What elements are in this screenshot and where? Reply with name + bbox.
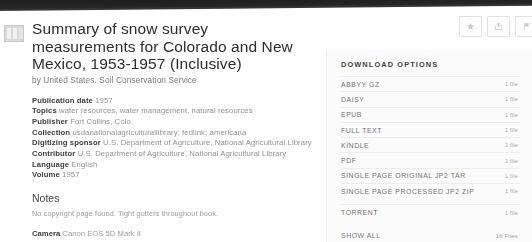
download-option-row[interactable]: PDF 1 file: [341, 152, 520, 167]
favorite-button[interactable]: [459, 16, 482, 37]
metadata-row: Collection usdanationalagriculturallibra…: [32, 128, 332, 138]
flag-button[interactable]: [515, 16, 532, 37]
metadata-value[interactable]: water resources, water management, natur…: [59, 106, 253, 115]
download-option-label: TORRENT: [341, 209, 378, 216]
author-byline[interactable]: by United States. Soil Conservation Serv…: [32, 76, 300, 85]
download-option-count: 1 file: [505, 127, 518, 133]
download-option-count: 1 file: [505, 112, 518, 118]
item-info-column: Summary of snow survey measurements for …: [0, 16, 340, 242]
download-option-count: 1 file: [505, 81, 518, 87]
download-option-count: 1 file: [505, 173, 518, 179]
show-all-label: SHOW ALL: [341, 232, 381, 239]
download-option-label: PDF: [341, 157, 356, 164]
download-option-row[interactable]: TORRENT 1 file: [341, 204, 520, 219]
metadata-key: Collection: [32, 128, 70, 137]
metadata-row: Topics water resources, water management…: [32, 106, 332, 116]
metadata-row: Digitizing sponsor U.S. Department of Ag…: [32, 138, 332, 148]
share-icon: [494, 22, 503, 31]
metadata-row: Contributor U.S. Department of Agricultu…: [32, 149, 332, 159]
download-option-label: DAISY: [341, 96, 364, 103]
item-header: Summary of snow survey measurements for …: [4, 20, 332, 85]
metadata-value[interactable]: usdanationalagriculturallibrary; fedlink…: [72, 128, 246, 137]
top-navigation-bar: [0, 0, 532, 11]
metadata-value: 1957: [62, 170, 80, 179]
metadata-row: Volume 1957: [32, 170, 332, 180]
download-option-row[interactable]: DAISY 1 file: [341, 91, 520, 106]
download-option-count: 1 file: [505, 158, 518, 164]
download-option-label: ABBYY GZ: [341, 81, 380, 88]
page-title: Summary of snow survey measurements for …: [32, 20, 300, 73]
metadata-key: Digitizing sponsor: [32, 138, 101, 147]
download-option-row[interactable]: SINGLE PAGE PROCESSED JP2 ZIP 1 file: [341, 183, 520, 198]
book-thumbnail-icon[interactable]: [4, 25, 24, 42]
download-option-count: 1 file: [505, 188, 518, 194]
metadata-value: Canon EOS 5D Mark II: [62, 229, 141, 238]
metadata-key: Volume: [32, 170, 60, 179]
metadata-key: Topics: [32, 106, 57, 115]
metadata-value: 1957: [95, 96, 113, 105]
metadata-list: Publication date 1957 Topics water resou…: [32, 96, 332, 181]
metadata-row: Camera Canon EOS 5D Mark II: [32, 229, 332, 239]
download-options-title: DOWNLOAD OPTIONS: [341, 60, 520, 69]
download-option-label: SINGLE PAGE PROCESSED JP2 ZIP: [341, 188, 474, 195]
metadata-row: Publication date 1957: [32, 96, 332, 106]
metadata-value[interactable]: U.S. Department of Agriculture, National…: [78, 149, 287, 158]
share-button[interactable]: [487, 16, 510, 37]
metadata-value: U.S. Department of Agriculture, National…: [103, 138, 312, 147]
item-details-page: Summary of snow survey measurements for …: [0, 0, 532, 242]
flag-icon: [522, 22, 531, 31]
metadata-value: English: [71, 160, 97, 169]
show-all-count: 16 Files: [496, 233, 518, 239]
download-option-row[interactable]: EPUB 1 file: [341, 107, 520, 122]
metadata-key: Publication date: [32, 96, 93, 105]
download-option-count: 1 file: [505, 96, 518, 102]
metadata-key: Contributor: [32, 149, 75, 158]
download-option-row[interactable]: KINDLE 1 file: [341, 137, 520, 152]
download-option-label: EPUB: [341, 111, 362, 118]
download-option-count: 1 file: [505, 142, 518, 148]
metadata-row: Publisher Fort Collins, Colo.: [32, 117, 332, 127]
notes-body: No copyright page found. Tight gutters t…: [32, 209, 332, 218]
download-option-count: 1 file: [505, 210, 518, 216]
download-option-label: KINDLE: [341, 142, 369, 149]
download-option-label: SINGLE PAGE ORIGINAL JP2 TAR: [341, 172, 466, 179]
metadata-key: Publisher: [32, 117, 68, 126]
download-option-row[interactable]: FULL TEXT 1 file: [341, 122, 520, 137]
download-options-panel: DOWNLOAD OPTIONS ABBYY GZ 1 file DAISY 1…: [326, 50, 532, 242]
show-all-files-button[interactable]: SHOW ALL 16 Files: [341, 229, 520, 242]
metadata-row: Language English: [32, 160, 332, 170]
download-option-row[interactable]: ABBYY GZ 1 file: [341, 76, 520, 91]
technical-metadata-list: Camera Canon EOS 5D Mark II Identifier C…: [32, 229, 332, 242]
metadata-value: Fort Collins, Colo.: [70, 117, 133, 126]
title-block: Summary of snow survey measurements for …: [32, 20, 300, 85]
item-action-buttons: [459, 16, 532, 37]
download-option-row[interactable]: SINGLE PAGE ORIGINAL JP2 TAR 1 file: [341, 168, 520, 183]
star-icon: [466, 22, 475, 31]
metadata-key: Camera: [32, 229, 60, 238]
download-option-label: FULL TEXT: [341, 127, 382, 134]
notes-heading: Notes: [32, 192, 332, 204]
metadata-key: Language: [32, 160, 69, 169]
